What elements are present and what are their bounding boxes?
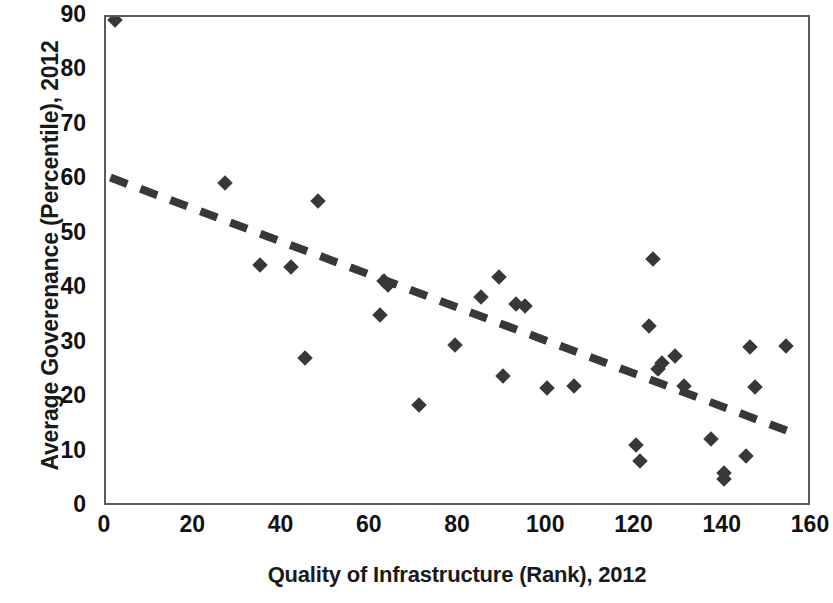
data-point (491, 269, 507, 285)
x-tick-0: 0 (69, 513, 139, 536)
data-point (667, 348, 683, 364)
y-tick-60: 60 (30, 166, 86, 189)
data-point (253, 257, 269, 273)
data-point (284, 260, 300, 276)
data-point (778, 339, 794, 355)
x-tick-120: 120 (599, 513, 669, 536)
data-point (107, 15, 123, 27)
trendline (110, 178, 794, 434)
x-tick-140: 140 (687, 513, 757, 536)
y-tick-40: 40 (30, 275, 86, 298)
data-point (742, 340, 758, 356)
x-tick-60: 60 (334, 513, 404, 536)
x-tick-80: 80 (422, 513, 492, 536)
data-point (645, 251, 661, 267)
x-tick-100: 100 (510, 513, 580, 536)
x-axis-title: Quality of Infrastructure (Rank), 2012 (104, 562, 810, 588)
trendline-svg (106, 17, 810, 505)
data-point (632, 453, 648, 469)
x-tick-20: 20 (157, 513, 227, 536)
y-tick-70: 70 (30, 112, 86, 135)
data-point (747, 379, 763, 395)
data-point (539, 381, 555, 397)
data-point (447, 337, 463, 353)
data-point (297, 351, 313, 367)
data-point (473, 290, 489, 306)
data-point (676, 378, 692, 394)
y-tick-90: 90 (30, 3, 86, 26)
y-tick-30: 30 (30, 330, 86, 353)
data-point (628, 438, 644, 454)
data-point (217, 175, 233, 191)
y-tick-80: 80 (30, 57, 86, 80)
data-point (738, 449, 754, 465)
y-tick-10: 10 (30, 439, 86, 462)
x-tick-160: 160 (775, 513, 833, 536)
y-tick-20: 20 (30, 384, 86, 407)
plot-area (104, 15, 810, 505)
data-point (412, 397, 428, 413)
data-point (495, 369, 511, 385)
y-tick-50: 50 (30, 221, 86, 244)
data-point (372, 308, 388, 324)
data-point (310, 193, 326, 209)
x-tick-40: 40 (246, 513, 316, 536)
data-point (703, 431, 719, 447)
data-point (641, 318, 657, 334)
data-point (566, 378, 582, 394)
